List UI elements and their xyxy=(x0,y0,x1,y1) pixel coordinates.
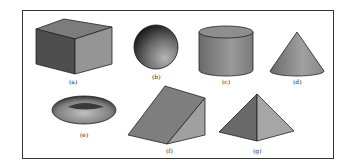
cylinder-shape xyxy=(199,26,253,76)
sphere-shape xyxy=(134,25,178,69)
label-b: (b) xyxy=(152,73,161,80)
pyramid-shape xyxy=(219,94,294,141)
cone-shape xyxy=(270,32,324,76)
wedge-shape xyxy=(128,86,205,144)
torus-shape xyxy=(52,96,116,124)
label-g: (g) xyxy=(253,147,262,155)
label-d: (d) xyxy=(293,78,302,85)
label-c: (c) xyxy=(222,78,230,85)
cube-shape xyxy=(36,19,112,74)
label-f: (f) xyxy=(166,147,173,154)
label-a: (a) xyxy=(69,78,77,85)
shapes-canvas: (a) (b) (c) (d) (e) (f) (g) xyxy=(0,0,350,167)
label-e: (e) xyxy=(80,131,88,138)
